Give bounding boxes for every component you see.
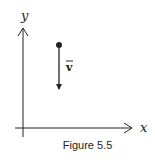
vector-label: v	[65, 61, 73, 74]
figure-caption: Figure 5.5	[0, 139, 155, 151]
x-axis	[15, 123, 132, 133]
y-axis	[18, 28, 28, 137]
x-axis-label: x	[140, 120, 148, 135]
vector-arrowhead-icon	[56, 84, 62, 90]
velocity-vector	[56, 45, 62, 90]
diagram-canvas: x y v	[0, 0, 155, 162]
y-axis-label: y	[20, 8, 29, 23]
